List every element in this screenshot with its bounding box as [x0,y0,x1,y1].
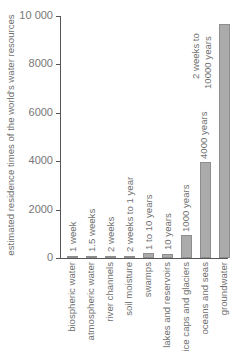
bar-soil-moisture [124,256,135,258]
bar-annotation: 10 years [162,213,173,250]
y-axis-line [60,16,61,259]
y-tick [56,210,60,211]
bar-annotation: 10000 years [202,36,213,89]
y-tick-label: 10 000 [19,9,53,21]
y-tick [56,16,60,17]
bar-atmospheric-water [86,256,97,258]
category-label: lakes and reservoirs [161,262,172,358]
bar-annotation: 1 week [67,222,78,252]
y-tick-label: 6000 [29,106,53,118]
bar-biospheric-water [67,256,78,258]
category-label: atmospheric water [85,262,96,358]
y-tick-label: 0 [47,251,53,263]
bar-swamps [143,253,154,258]
bar-river-channels [105,256,116,258]
y-tick-label: 2000 [29,203,53,215]
category-label: oceans and seas [199,262,210,358]
category-label: biospheric water [66,262,77,358]
bar-annotation: 1.5 weeks [86,209,97,252]
category-label: soil moisture [123,262,134,358]
bar-groundwater [219,24,230,258]
bar-ice-caps-and-glaciers [181,235,192,258]
bar-annotation: 2 weeks to 1 year [124,177,135,252]
bar-annotation: 2 weeks to [190,33,201,79]
x-axis-line [60,258,228,259]
y-tick [56,161,60,162]
bar-annotation: 2 weeks [105,217,116,252]
y-tick [56,113,60,114]
bar-oceans-and-seas [200,162,211,258]
category-label: swamps [142,262,153,358]
bar-annotation: 1000 years [180,185,191,232]
bar-lakes-and-reservoirs [162,254,173,258]
bar-annotation: 4000 years [198,112,209,159]
y-axis-label: estimated residence times of the world's… [5,5,19,265]
category-label: river channels [104,262,115,358]
y-tick [56,64,60,65]
category-label: groundwater [218,262,229,358]
y-tick [56,258,60,259]
category-label: ice caps and glaciers [180,262,191,358]
y-tick-label: 4000 [29,154,53,166]
y-tick-label: 8000 [29,57,53,69]
bar-annotation: 1 to 10 years [143,195,154,250]
